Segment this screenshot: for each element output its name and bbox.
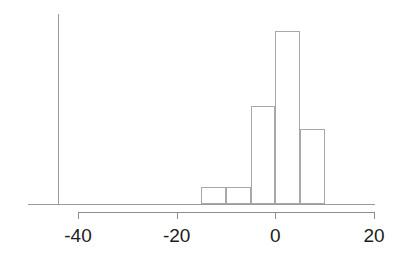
histogram-bar bbox=[275, 31, 300, 204]
histogram-bar bbox=[201, 187, 226, 204]
x-axis-baseline bbox=[28, 204, 375, 205]
x-axis-tick bbox=[374, 212, 375, 219]
x-axis-tick bbox=[78, 212, 79, 219]
x-axis-tick-label: 0 bbox=[270, 226, 281, 245]
x-axis-tick bbox=[275, 212, 276, 219]
histogram-bar bbox=[300, 129, 325, 204]
x-axis-tick-label: 20 bbox=[363, 226, 384, 245]
x-axis-tick bbox=[177, 212, 178, 219]
histogram-bar bbox=[251, 106, 276, 204]
histogram-figure: -40-20020 bbox=[0, 0, 398, 258]
x-tick-axis-rule bbox=[78, 212, 374, 213]
histogram-bar bbox=[226, 187, 251, 204]
x-axis-tick-label: -20 bbox=[163, 226, 190, 245]
y-axis-spine bbox=[58, 14, 59, 204]
x-axis-tick-label: -40 bbox=[64, 226, 91, 245]
